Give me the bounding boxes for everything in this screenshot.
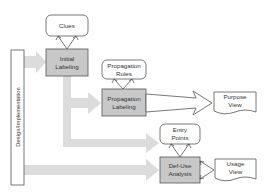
flow-arrow-to-initial-labeling	[24, 51, 46, 73]
initial-labeling-label: Initial Labeling	[46, 49, 88, 76]
clues-label: Clues	[46, 15, 88, 36]
propagation-labeling-label: Propagation Labeling	[101, 89, 147, 116]
arrows-entry-defuse	[169, 144, 191, 157]
entry-points-label: Entry Points	[160, 124, 200, 144]
propagation-rules-label: Propagation Rules	[101, 60, 147, 79]
flow-arrow-to-def-use	[24, 159, 159, 181]
usage-view-label: Usage View	[215, 158, 256, 177]
arrows-clues-initial	[56, 36, 78, 49]
def-use-analysis-label: Def-Use Analysis	[160, 157, 200, 183]
arrows-defuse-usage	[200, 161, 214, 179]
design-implementation-label: Design/Implementation	[15, 72, 21, 162]
arrow-to-purpose-view	[146, 91, 212, 115]
arrows-rules-propagation	[112, 79, 134, 89]
purpose-view-label: Purpose View	[214, 91, 256, 110]
